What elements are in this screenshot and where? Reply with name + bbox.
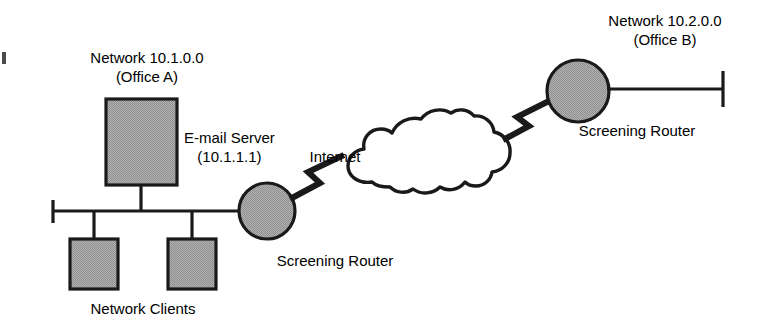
screening-router-left-circle [239,183,295,239]
label-network-b-line2: (Office B) [608,30,721,49]
label-network-a-line2: (Office A) [90,67,203,86]
internet-cloud-shape [348,110,510,193]
screening-router-right-circle [547,60,609,122]
label-network-office-a: Network 10.1.0.0 (Office A) [90,48,203,86]
label-network-clients-text: Network Clients [90,299,195,318]
label-internet: Internet [310,147,361,166]
label-screening-router-right: Screening Router [579,121,696,140]
email-server-box [106,99,177,185]
label-email-server: E-mail Server (10.1.1.1) [184,128,275,166]
label-network-a-line1: Network 10.1.0.0 [90,48,203,67]
label-network-b-line1: Network 10.2.0.0 [608,11,721,30]
network-client-box-2 [168,239,216,289]
label-screening-router-left-text: Screening Router [277,251,394,270]
bus-office-a [52,186,245,239]
label-screening-router-right-text: Screening Router [579,121,696,140]
label-email-server-address: (10.1.1.1) [184,147,275,166]
wan-link-right-lightning [503,100,551,140]
label-network-office-b: Network 10.2.0.0 (Office B) [608,11,721,49]
bus-office-b [607,71,724,107]
network-diagram: Network 10.1.0.0 (Office A) E-mail Serve… [0,0,766,330]
network-client-box-1 [70,239,118,289]
scan-artifact-mark [2,52,6,64]
label-network-clients: Network Clients [90,299,195,318]
label-screening-router-left: Screening Router [277,251,394,270]
label-internet-text: Internet [310,147,361,166]
label-email-server-name: E-mail Server [184,128,275,147]
